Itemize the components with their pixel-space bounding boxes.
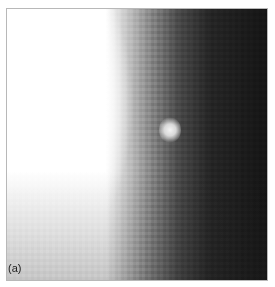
pixel-noise [7,9,267,280]
panel-label: (a) [8,262,21,274]
bright-spot [159,117,181,143]
image-panel [6,8,268,281]
